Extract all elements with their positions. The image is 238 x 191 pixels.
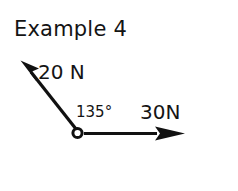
vector-30n-label: 30N	[140, 100, 180, 124]
vector-20n-label: 20 N	[38, 60, 85, 84]
vector-diagram-canvas: Example 4 20 N 30N 135°	[0, 0, 238, 191]
origin-point-marker	[73, 128, 82, 137]
force-diagram: Example 4 20 N 30N 135°	[0, 0, 238, 191]
angle-label: 135°	[76, 103, 112, 121]
figure-title: Example 4	[14, 17, 127, 41]
